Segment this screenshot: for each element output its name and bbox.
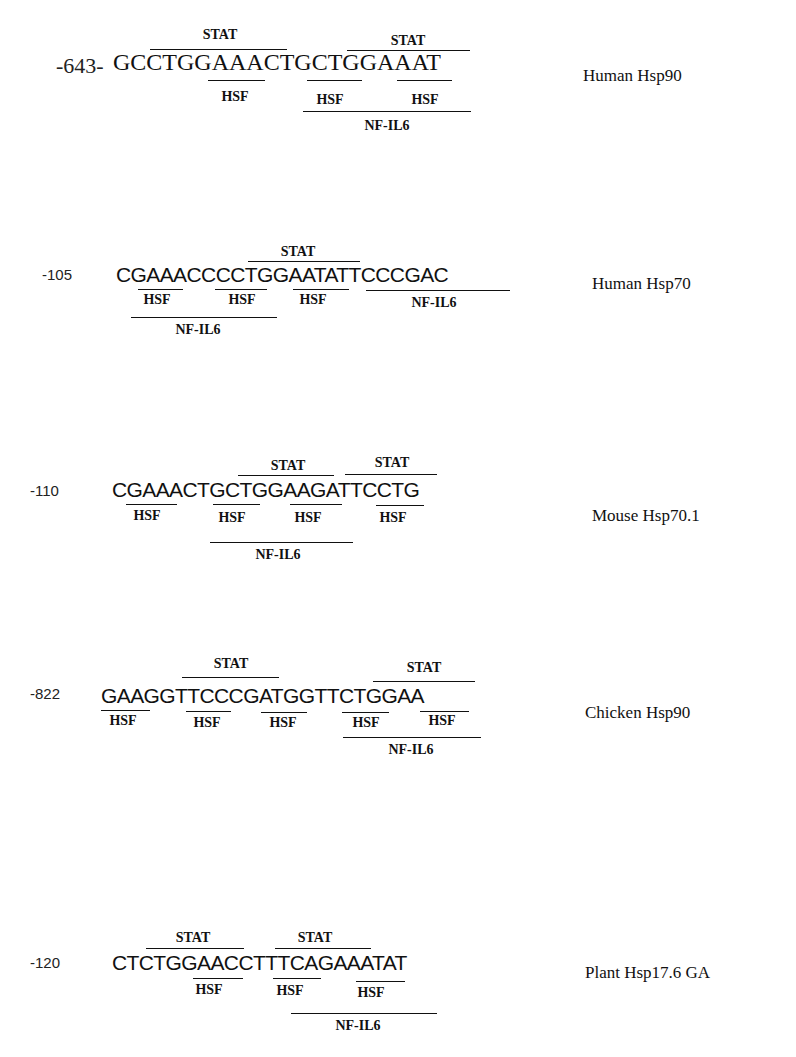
stat-label: STAT [163, 930, 223, 946]
hsf-label: HSF [368, 510, 418, 526]
hsf-label: HSF [217, 292, 267, 308]
gene-name: Plant Hsp17.6 GA [585, 963, 710, 983]
dna-sequence: CTCTGGAACCTTTCAGAAATAT [112, 951, 407, 975]
stat-bar [182, 677, 279, 678]
hsf-bar [397, 80, 452, 81]
hsf-label: HSF [283, 510, 333, 526]
hsf-label: HSF [288, 292, 338, 308]
hsf-bar [193, 978, 243, 979]
dna-sequence: CGAAACTGCTGGAAGATTCCTG [112, 478, 419, 502]
stat-bar [275, 948, 371, 949]
stat-label: STAT [268, 244, 328, 260]
gene-name: Chicken Hsp90 [585, 703, 690, 723]
hsf-bar [273, 978, 321, 979]
hsf-bar [290, 504, 342, 505]
stat-label: STAT [394, 660, 454, 676]
nf-il6-bar [303, 111, 471, 112]
nf-il6-bar [131, 317, 277, 318]
nf-il6-label: NF-IL6 [394, 295, 474, 311]
gene-name: Mouse Hsp70.1 [592, 506, 700, 526]
hsf-bar [101, 710, 150, 711]
dna-sequence: GCCTGGAAACTGCTGGAAAT [113, 49, 441, 76]
nf-il6-label: NF-IL6 [238, 547, 318, 563]
dna-sequence: CGAAACCCCTGGAATATTCCCGAC [116, 263, 448, 287]
hsf-bar [215, 289, 267, 290]
hsf-label: HSF [258, 715, 308, 731]
dna-sequence: GAAGGTTCCCGATGGTTCTGGAA [101, 684, 424, 708]
hsf-bar [307, 80, 362, 81]
gene-name: Human Hsp70 [592, 274, 691, 294]
hsf-bar [420, 711, 469, 712]
hsf-label: HSF [207, 510, 257, 526]
sequence-position: -105 [42, 266, 72, 283]
hsf-label: HSF [341, 715, 391, 731]
stat-label: STAT [258, 458, 318, 474]
stat-label: STAT [285, 930, 345, 946]
nf-il6-label: NF-IL6 [318, 1018, 398, 1034]
sequence-position: -822 [30, 685, 60, 702]
nf-il6-bar [291, 1013, 437, 1014]
stat-bar [238, 475, 334, 476]
hsf-label: HSF [122, 508, 172, 524]
hsf-label: HSF [182, 715, 232, 731]
sequence-position: -120 [30, 954, 60, 971]
hsf-label: HSF [210, 89, 260, 105]
stat-label: STAT [190, 27, 250, 43]
hsf-label: HSF [305, 92, 355, 108]
nf-il6-bar [210, 542, 353, 543]
nf-il6-bar [366, 290, 510, 291]
sequence-position: -110 [30, 482, 59, 499]
stat-bar [373, 681, 475, 682]
hsf-label: HSF [265, 983, 315, 999]
hsf-label: HSF [400, 92, 450, 108]
nf-il6-label: NF-IL6 [347, 118, 427, 134]
hsf-label: HSF [98, 713, 148, 729]
nf-il6-label: NF-IL6 [371, 742, 451, 758]
hsf-bar [356, 981, 405, 982]
nf-il6-label: NF-IL6 [158, 322, 238, 338]
nf-il6-bar [343, 737, 481, 738]
stat-label: STAT [201, 656, 261, 672]
hsf-bar [186, 711, 231, 712]
stat-label: STAT [378, 33, 438, 49]
stat-bar [248, 261, 360, 262]
stat-bar [146, 948, 244, 949]
hsf-bar [261, 712, 307, 713]
stat-bar [345, 474, 437, 475]
hsf-label: HSF [417, 713, 467, 729]
hsf-bar [293, 289, 349, 290]
hsf-bar [126, 504, 177, 505]
hsf-label: HSF [184, 982, 234, 998]
hsf-label: HSF [346, 985, 396, 1001]
hsf-bar [213, 504, 260, 505]
hsf-label: HSF [132, 292, 182, 308]
hsf-bar [376, 505, 424, 506]
gene-name: Human Hsp90 [583, 66, 682, 86]
stat-label: STAT [362, 455, 422, 471]
hsf-bar [208, 80, 265, 81]
sequence-position: -643- [56, 53, 104, 79]
hsf-bar [138, 289, 183, 290]
hsf-bar [342, 712, 389, 713]
